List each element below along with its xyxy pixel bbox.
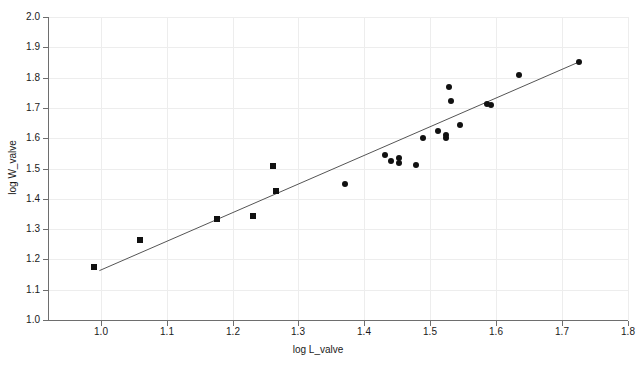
x-tick-label: 1.6: [481, 327, 511, 337]
data-point-square: [91, 264, 97, 270]
y-tick-label: 1.0: [8, 315, 40, 325]
gridline-horizontal: [48, 47, 628, 48]
data-point-circle: [396, 160, 402, 166]
gridline-vertical: [101, 17, 102, 320]
gridline-vertical: [430, 17, 431, 320]
x-tick-label: 1.7: [547, 327, 577, 337]
x-tick-label: 1.8: [613, 327, 636, 337]
y-tick-mark: [43, 320, 48, 321]
gridline-horizontal: [48, 199, 628, 200]
y-tick-label: 1.7: [8, 103, 40, 113]
y-tick-mark: [43, 199, 48, 200]
x-tick-label: 1.2: [218, 327, 248, 337]
scatter-plot-figure: 1.01.11.21.31.41.51.61.71.81.92.0 1.01.1…: [0, 0, 636, 379]
y-tick-mark: [43, 17, 48, 18]
y-tick-mark: [43, 47, 48, 48]
gridline-horizontal: [48, 78, 628, 79]
gridline-horizontal: [48, 17, 628, 18]
gridline-horizontal: [48, 290, 628, 291]
x-tick-label: 1.1: [152, 327, 182, 337]
x-tick-label: 1.3: [283, 327, 313, 337]
y-tick-label: 1.2: [8, 254, 40, 264]
x-axis-line: [48, 320, 628, 321]
data-point-circle: [457, 122, 463, 128]
gridline-vertical: [562, 17, 563, 320]
data-point-circle: [448, 98, 454, 104]
data-point-square: [214, 216, 220, 222]
data-point-square: [270, 163, 276, 169]
data-point-square: [273, 188, 279, 194]
gridline-horizontal: [48, 229, 628, 230]
y-tick-mark: [43, 290, 48, 291]
y-tick-label: 1.3: [8, 224, 40, 234]
gridline-vertical: [628, 17, 629, 320]
gridline-vertical: [167, 17, 168, 320]
gridline-horizontal: [48, 138, 628, 139]
y-tick-label: 1.1: [8, 285, 40, 295]
data-point-circle: [516, 72, 522, 78]
data-point-circle: [342, 181, 348, 187]
x-axis-title: log L_valve: [0, 344, 636, 355]
y-tick-mark: [43, 78, 48, 79]
y-tick-mark: [43, 229, 48, 230]
data-point-circle: [413, 162, 419, 168]
gridline-vertical: [298, 17, 299, 320]
gridline-horizontal: [48, 108, 628, 109]
y-tick-label: 1.8: [8, 73, 40, 83]
x-tick-label: 1.0: [86, 327, 116, 337]
y-tick-mark: [43, 259, 48, 260]
y-axis-title: log W_valve: [7, 118, 18, 218]
data-point-square: [250, 213, 256, 219]
gridline-vertical: [496, 17, 497, 320]
data-point-circle: [446, 84, 452, 90]
x-tick-label: 1.4: [349, 327, 379, 337]
gridline-vertical: [233, 17, 234, 320]
gridline-horizontal: [48, 259, 628, 260]
data-point-circle: [576, 59, 582, 65]
y-tick-mark: [43, 138, 48, 139]
gridline-vertical: [364, 17, 365, 320]
y-tick-mark: [43, 108, 48, 109]
y-axis-line: [48, 17, 49, 321]
x-tick-label: 1.5: [415, 327, 445, 337]
y-tick-label: 1.9: [8, 42, 40, 52]
y-tick-mark: [43, 169, 48, 170]
gridline-horizontal: [48, 169, 628, 170]
data-point-square: [137, 237, 143, 243]
y-tick-label: 2.0: [8, 12, 40, 22]
data-point-circle: [388, 158, 394, 164]
